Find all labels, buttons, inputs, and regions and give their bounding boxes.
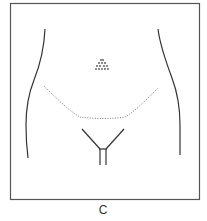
panel-label: C — [99, 203, 108, 217]
frame-border — [11, 4, 200, 200]
abdomen-diagram: C — [0, 0, 207, 221]
